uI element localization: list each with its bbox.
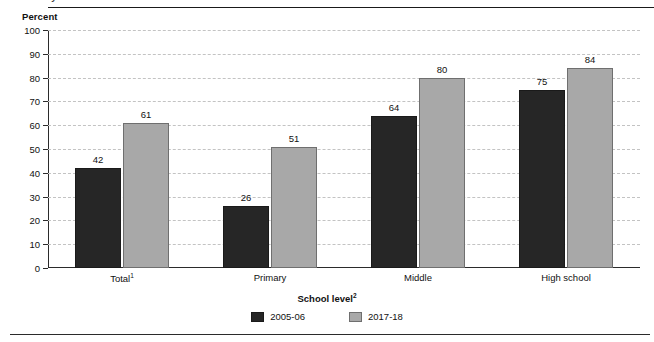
y-axis-tick-label: 0: [35, 263, 40, 274]
legend-swatch: [349, 312, 362, 322]
y-axis-tick-label: 100: [24, 25, 40, 36]
bar-middle-2005-06: [371, 116, 417, 268]
bar-value-label: 80: [437, 64, 448, 75]
x-axis-category-label: Middle: [404, 272, 432, 283]
chart-legend: 2005-062017-18: [0, 311, 654, 322]
y-axis-tick-label: 80: [29, 72, 40, 83]
y-axis-tick: [43, 125, 48, 126]
bar-value-label: 64: [389, 102, 400, 113]
y-axis-tick: [43, 30, 48, 31]
legend-swatch: [251, 312, 264, 322]
y-axis-tick: [43, 78, 48, 79]
x-axis-category-superscript: 1: [130, 272, 134, 279]
legend-item-2005-06[interactable]: 2005-06: [251, 311, 305, 322]
bar-middle-2017-18: [419, 78, 465, 268]
x-axis-category-text: Primary: [254, 272, 287, 283]
y-axis-tick: [43, 101, 48, 102]
gridline: [48, 30, 640, 31]
bar-value-label: 51: [289, 133, 300, 144]
x-axis-title-text: School level: [297, 293, 352, 304]
y-axis-tick-label: 90: [29, 48, 40, 59]
bar-primary-2017-18: [271, 147, 317, 268]
x-axis-category-label: High school: [541, 272, 591, 283]
y-axis-tick: [43, 54, 48, 55]
bar-value-label: 75: [537, 76, 548, 87]
bar-high-school-2017-18: [567, 68, 613, 268]
bar-value-label: 84: [585, 54, 596, 65]
clipped-figure-title-text: years 2005-06 and 2017-18: [52, 0, 165, 2]
y-axis-tick-label: 40: [29, 167, 40, 178]
y-axis-tick-label: 20: [29, 215, 40, 226]
y-axis-tick: [43, 268, 48, 269]
x-axis-category-text: High school: [541, 272, 591, 283]
y-axis-tick-label: 70: [29, 96, 40, 107]
legend-item-2017-18[interactable]: 2017-18: [349, 311, 403, 322]
bar-value-label: 26: [241, 192, 252, 203]
y-axis-unit-label: Percent: [22, 11, 58, 22]
legend-label: 2017-18: [368, 311, 403, 322]
x-axis-category-text: Middle: [404, 272, 432, 283]
bar-value-label: 42: [93, 154, 104, 165]
gridline: [48, 54, 640, 55]
x-axis-title-superscript: 2: [353, 292, 357, 299]
plot-area: 0102030405060708090100 4261265164807584 …: [48, 30, 640, 268]
gridline: [48, 78, 640, 79]
y-axis-tick: [43, 220, 48, 221]
bar-total-2017-18: [123, 123, 169, 268]
bar-value-label: 61: [141, 109, 152, 120]
x-axis-title: School level2: [0, 292, 654, 304]
bar-primary-2005-06: [223, 206, 269, 268]
y-axis-tick-label: 60: [29, 120, 40, 131]
bar-total-2005-06: [75, 168, 121, 268]
x-axis-category-label: Total1: [110, 272, 134, 284]
legend-label: 2005-06: [270, 311, 305, 322]
y-axis-tick: [43, 244, 48, 245]
y-axis-tick-label: 30: [29, 191, 40, 202]
x-axis-category-text: Total: [110, 273, 130, 284]
y-axis-tick-label: 50: [29, 144, 40, 155]
y-axis-tick: [43, 173, 48, 174]
y-axis-tick-label: 10: [29, 239, 40, 250]
top-rule-divider: [48, 7, 654, 8]
bar-high-school-2005-06: [519, 90, 565, 269]
y-axis-tick: [43, 197, 48, 198]
bottom-rule-divider: [10, 334, 650, 335]
y-axis-tick: [43, 149, 48, 150]
x-axis-category-label: Primary: [254, 272, 287, 283]
